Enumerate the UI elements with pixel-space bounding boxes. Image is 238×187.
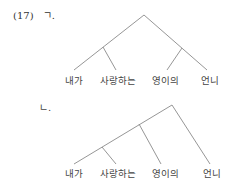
tree-b-edge-root-left [74, 105, 172, 164]
tree-a-edge-root-left [74, 15, 144, 70]
tree-a-edge-node-yeongiui [167, 48, 182, 70]
tree-a-word-4: 언니 [201, 75, 219, 86]
tree-a-word-2: 사랑하는 [100, 75, 136, 86]
tree-b-word-3: 영이의 [152, 168, 179, 179]
tree-a: 내가 사랑하는 영이의 언니 [65, 15, 219, 86]
tree-a-word-3: 영이의 [152, 75, 179, 86]
tree-b-word-2: 사랑하는 [100, 168, 136, 179]
tree-a-edge-root-right [144, 15, 207, 70]
tree-b-word-4: 언니 [203, 168, 221, 179]
tree-b-edge-root-eonni [172, 105, 210, 164]
tree-b-edge-node-yeongiui [139, 124, 161, 164]
tree-a-edge-node-saranghaneun [103, 47, 116, 70]
tree-b-word-1: 내가 [65, 168, 83, 179]
syntax-trees: 내가 사랑하는 영이의 언니 내가 사랑하는 영이의 언니 [0, 0, 238, 187]
tree-b-edge-node-saranghaneun [102, 147, 116, 164]
tree-a-word-1: 내가 [65, 75, 83, 86]
tree-b: 내가 사랑하는 영이의 언니 [65, 105, 221, 179]
